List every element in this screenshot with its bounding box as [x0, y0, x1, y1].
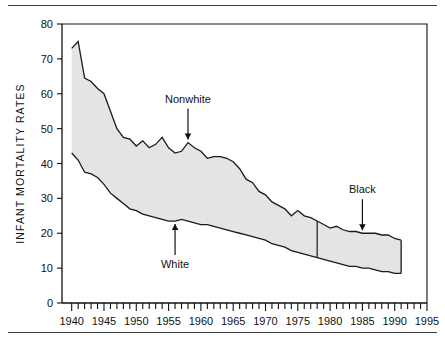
x-tick-label: 1965	[221, 315, 245, 327]
x-tick-label: 1975	[286, 315, 310, 327]
y-tick-label: 60	[41, 88, 53, 100]
x-tick-label: 1940	[59, 315, 83, 327]
x-tick-label: 1980	[318, 315, 342, 327]
x-tick-label: 1955	[156, 315, 180, 327]
annotation-label-nonwhite: Nonwhite	[165, 93, 211, 105]
figure-container: 01020304050607080INFANT MORTALITY RATES1…	[0, 0, 445, 344]
y-tick-label: 50	[41, 123, 53, 135]
x-tick-label: 1970	[253, 315, 277, 327]
x-tick-label: 1985	[350, 315, 374, 327]
x-tick-label: 1945	[92, 315, 116, 327]
x-tick-label: 1950	[124, 315, 148, 327]
y-tick-label: 0	[47, 297, 53, 309]
band-area-fill	[72, 41, 401, 273]
x-tick-label: 1960	[189, 315, 213, 327]
y-tick-label: 40	[41, 158, 53, 170]
annotation-arrowhead-black	[359, 224, 366, 230]
y-tick-label: 10	[41, 262, 53, 274]
annotation-arrowhead-white	[172, 224, 179, 230]
annotation-label-black: Black	[349, 183, 376, 195]
x-tick-label: 1995	[415, 315, 439, 327]
y-tick-label: 80	[41, 18, 53, 30]
annotation-arrowhead-nonwhite	[185, 134, 192, 140]
y-tick-label: 30	[41, 192, 53, 204]
x-tick-label: 1990	[382, 315, 406, 327]
y-tick-label: 70	[41, 53, 53, 65]
annotation-label-white: White	[161, 258, 189, 270]
infant-mortality-area-chart: 01020304050607080INFANT MORTALITY RATES1…	[0, 0, 445, 344]
y-axis-title: INFANT MORTALITY RATES	[14, 83, 26, 243]
y-tick-label: 20	[41, 227, 53, 239]
